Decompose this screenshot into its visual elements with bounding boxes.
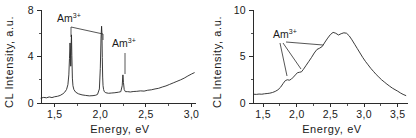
cl-spectra-figure: CL Intensity, a.u. 0 4 8 bbox=[0, 0, 416, 138]
panel-left-xtick-2: 2,0 bbox=[93, 108, 109, 120]
panel-left-xtick-4: 3,0 bbox=[184, 108, 200, 120]
panel-right: CL Intensity, a.u. 0 5 10 bbox=[208, 0, 416, 138]
panel-right-xtick-3: 2,5 bbox=[323, 108, 339, 120]
panel-left-xtick-3: 2,5 bbox=[138, 108, 154, 120]
am-label-upper-text: Am bbox=[57, 12, 73, 24]
panel-right-xtick-1: 1,5 bbox=[255, 108, 271, 120]
panel-left-ytick-0: 0 bbox=[28, 97, 34, 109]
panel-right-x-ticks bbox=[263, 103, 398, 107]
am-label-lower-text: Am bbox=[112, 37, 128, 49]
panel-right-ytick-0: 0 bbox=[240, 97, 246, 109]
panel-left-ylabel: CL Intensity, a.u. bbox=[3, 16, 15, 108]
panel-left-ytick-4: 4 bbox=[28, 50, 34, 62]
panel-left-xlabel: Energy, eV bbox=[90, 123, 150, 135]
panel-right-spectrum-trace bbox=[254, 32, 406, 95]
panel-right-ytick-5: 5 bbox=[240, 50, 246, 62]
am-label-text: Am bbox=[273, 28, 289, 40]
am-label: Am3+ bbox=[273, 28, 297, 40]
panel-left-xtick-1: 1,5 bbox=[47, 108, 63, 120]
panel-right-y-ticks bbox=[249, 10, 253, 103]
am-label-lower-sup: 3+ bbox=[128, 37, 136, 44]
panel-left-ytick-8: 8 bbox=[28, 4, 34, 16]
panel-right-xtick-2: 2,0 bbox=[289, 108, 305, 120]
panel-left-y-ticks bbox=[37, 10, 41, 103]
am-label-upper-sup: 3+ bbox=[73, 12, 81, 19]
panel-right-xlabel: Energy, eV bbox=[302, 123, 362, 135]
panel-left-x-ticks bbox=[55, 103, 192, 107]
am-label-sup: 3+ bbox=[289, 28, 297, 35]
am-label-upper: Am3+ bbox=[57, 12, 81, 24]
am-leader-lines-upper bbox=[71, 27, 103, 40]
panel-left: CL Intensity, a.u. 0 4 8 bbox=[0, 0, 208, 138]
panel-right-ylabel: CL Intensity, a.u. bbox=[211, 16, 223, 108]
am-leader-lines bbox=[280, 42, 323, 76]
panel-right-xtick-4: 3,0 bbox=[356, 108, 372, 120]
panel-right-xtick-5: 3,5 bbox=[390, 108, 406, 120]
am-label-lower: Am3+ bbox=[112, 37, 136, 49]
panel-right-ytick-10: 10 bbox=[234, 4, 246, 16]
